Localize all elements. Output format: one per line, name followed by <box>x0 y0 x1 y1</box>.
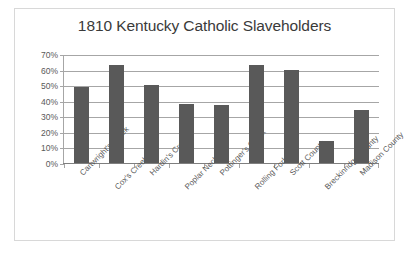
x-axis-tick <box>99 164 100 168</box>
x-axis-tick <box>309 164 310 168</box>
x-axis-labels: Cartwright's CreekCox's CreekHardin's Cr… <box>64 169 380 241</box>
bar <box>284 70 299 163</box>
y-axis-label: 60% <box>41 66 58 76</box>
y-axis-label: 0% <box>46 159 58 169</box>
bar-slot <box>274 55 309 163</box>
x-axis-tick <box>239 164 240 168</box>
y-axis-label: 70% <box>41 50 58 60</box>
x-axis-tick <box>64 164 65 168</box>
bar-slot <box>134 55 169 163</box>
bar <box>179 104 194 163</box>
bar-slot <box>204 55 239 163</box>
bar <box>214 105 229 163</box>
x-axis-tick <box>378 164 379 168</box>
bar <box>144 85 159 163</box>
chart-card: 1810 Kentucky Catholic Slaveholders 70%6… <box>14 8 395 241</box>
chart-title: 1810 Kentucky Catholic Slaveholders <box>15 17 394 35</box>
y-axis-label: 40% <box>41 97 58 107</box>
y-axis-label: 30% <box>41 112 58 122</box>
bar-slot <box>64 55 99 163</box>
y-axis-label: 20% <box>41 128 58 138</box>
y-axis-label: 50% <box>41 81 58 91</box>
x-axis-tick <box>169 164 170 168</box>
bar <box>74 87 89 163</box>
y-axis-label: 10% <box>41 143 58 153</box>
